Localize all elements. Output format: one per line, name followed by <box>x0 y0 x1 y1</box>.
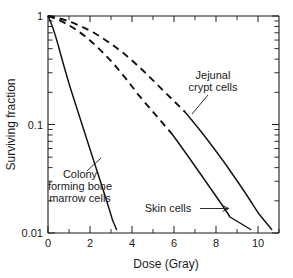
annotation-colony-forming-bone-marrow-cells: Colony forming bone marrow cells <box>48 158 112 204</box>
x-tick-label-6: 6 <box>171 237 177 249</box>
y-axis-tick-labels: 1 0.1 0.01 <box>22 10 43 239</box>
radiation-survival-chart: 0 2 4 6 8 10 1 0.1 0.01 Dose (Gray) Surv… <box>0 0 293 278</box>
annotation-skin-line-1: Skin cells <box>145 202 192 214</box>
x-tick-label-4: 4 <box>129 237 135 249</box>
annotation-colony-line-1: Colony <box>63 168 98 180</box>
curve-skin-cells <box>172 134 251 230</box>
annotation-colony-line-3: marrow cells <box>49 192 111 204</box>
annotation-skin-cells: Skin cells <box>145 202 229 214</box>
y-axis-title: Surviving fraction <box>4 78 18 170</box>
x-tick-label-2: 2 <box>87 237 93 249</box>
annotation-colony-line-2: forming bone <box>48 180 112 192</box>
y-tick-label-0p01: 0.01 <box>22 227 43 239</box>
y-axis-minor-ticks <box>48 21 53 201</box>
x-axis-title: Dose (Gray) <box>133 257 198 271</box>
y-axis-right-ticks <box>272 16 279 233</box>
y-tick-label-0p1: 0.1 <box>28 119 43 131</box>
y-tick-label-1: 1 <box>37 10 43 22</box>
annotation-jejunal-crypt-cells: Jejunal crypt cells <box>189 69 238 114</box>
x-tick-label-8: 8 <box>213 237 219 249</box>
curve-jejunal-crypt-cells-dashed <box>48 16 185 112</box>
x-axis-tick-labels: 0 2 4 6 8 10 <box>45 237 264 249</box>
leader-line-jejunal <box>192 95 208 114</box>
x-axis-top-ticks <box>69 16 258 22</box>
annotation-jejunal-line-1: Jejunal <box>196 69 231 81</box>
x-tick-label-0: 0 <box>45 237 51 249</box>
x-tick-label-10: 10 <box>252 237 264 249</box>
survival-curve-figure: 0 2 4 6 8 10 1 0.1 0.01 Dose (Gray) Surv… <box>0 0 293 278</box>
annotation-jejunal-line-2: crypt cells <box>189 81 238 93</box>
